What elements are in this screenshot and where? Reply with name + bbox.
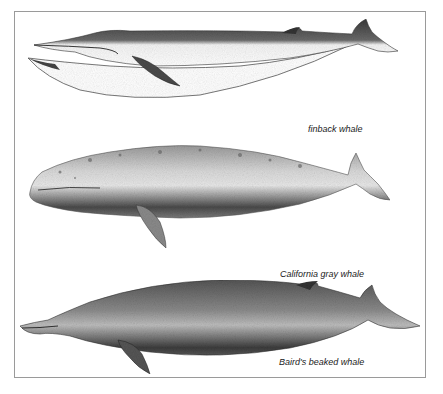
finback-whale-drawing [28,19,398,98]
whale-illustrations [0,0,443,394]
caption-finback-whale: finback whale [308,124,363,134]
caption-gray-whale: California gray whale [280,269,364,279]
gray-whale-drawing [30,146,390,248]
caption-bairds-beaked-whale: Baird's beaked whale [279,357,364,367]
